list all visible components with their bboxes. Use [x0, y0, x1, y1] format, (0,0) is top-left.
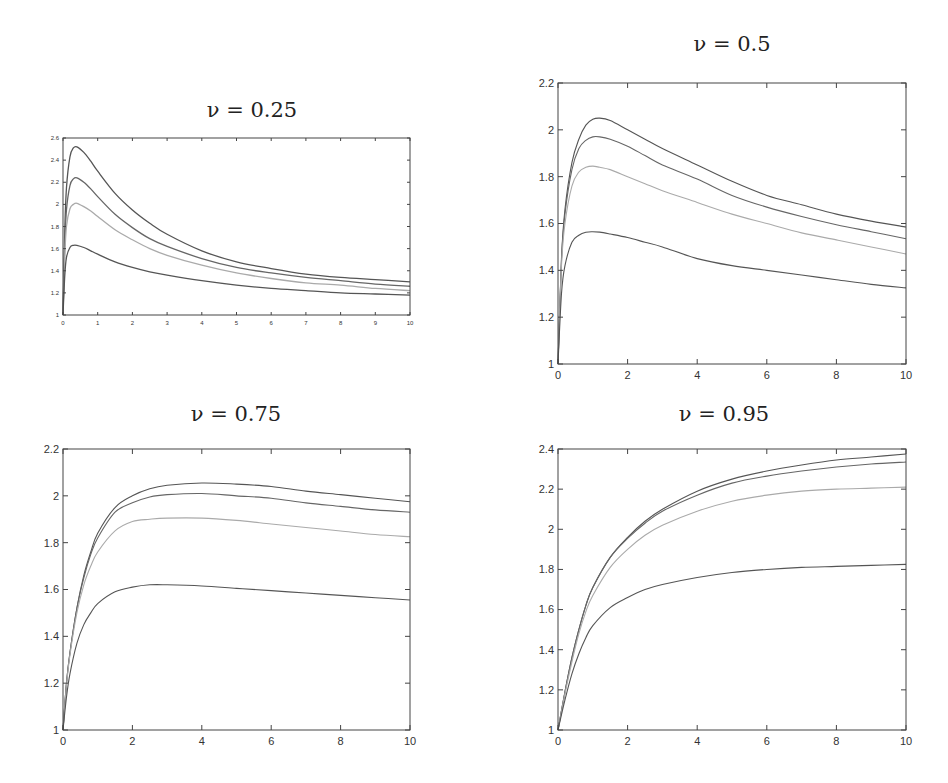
y-tick-label: 1.2	[539, 684, 554, 696]
x-tick-label: 9	[374, 320, 378, 326]
x-tick-label: 2	[129, 735, 135, 747]
y-tick-label: 2	[56, 201, 60, 207]
y-tick-label: 1.4	[539, 644, 554, 656]
y-tick-label: 1.2	[539, 311, 554, 323]
curve-4	[558, 564, 906, 730]
x-tick-label: 3	[165, 320, 169, 326]
x-tick-label: 10	[900, 735, 912, 747]
x-tick-label: 10	[404, 735, 416, 747]
y-tick-label: 1.4	[44, 630, 59, 642]
y-tick-label: 1	[548, 358, 554, 370]
x-tick-label: 6	[268, 735, 274, 747]
x-tick-label: 4	[694, 369, 700, 381]
x-tick-label: 8	[339, 320, 343, 326]
x-tick-label: 4	[199, 735, 205, 747]
curve-2	[558, 462, 906, 730]
y-tick-label: 1	[53, 724, 59, 736]
panel-1: 024681011.21.41.61.822.2	[539, 77, 912, 381]
axes-box	[63, 449, 410, 730]
x-tick-label: 1	[96, 320, 100, 326]
curve-4	[558, 232, 906, 364]
x-tick-label: 8	[833, 735, 839, 747]
y-tick-label: 2.2	[539, 77, 554, 89]
y-tick-label: 1.6	[539, 603, 554, 615]
y-tick-label: 2	[548, 523, 554, 535]
y-tick-label: 1.2	[44, 677, 59, 689]
y-tick-label: 1.6	[51, 246, 60, 252]
x-tick-label: 0	[60, 735, 66, 747]
curve-1	[558, 454, 906, 730]
curve-4	[63, 245, 410, 315]
curve-4	[63, 585, 410, 730]
x-tick-label: 2	[625, 735, 631, 747]
x-tick-label: 0	[61, 320, 65, 326]
x-tick-label: 2	[131, 320, 135, 326]
plot-canvas: 01234567891011.21.41.61.822.22.42.602468…	[0, 0, 948, 783]
x-tick-label: 0	[555, 369, 561, 381]
y-tick-label: 2	[548, 124, 554, 136]
x-tick-label: 6	[764, 735, 770, 747]
curve-1	[558, 118, 906, 364]
panel-2: 024681011.21.41.61.822.2	[44, 443, 416, 747]
y-tick-label: 1.8	[51, 224, 60, 230]
y-tick-label: 2.6	[51, 135, 60, 141]
curve-3	[63, 203, 410, 315]
axes-box	[63, 138, 410, 315]
curve-2	[63, 178, 410, 315]
x-tick-label: 0	[555, 735, 561, 747]
x-tick-label: 10	[407, 320, 414, 326]
y-tick-label: 1.6	[539, 217, 554, 229]
y-tick-label: 1	[548, 724, 554, 736]
y-tick-label: 1	[56, 312, 60, 318]
y-tick-label: 1.4	[51, 268, 60, 274]
y-tick-label: 2.2	[51, 179, 60, 185]
x-tick-label: 6	[270, 320, 274, 326]
y-tick-label: 1.8	[44, 537, 59, 549]
x-tick-label: 5	[235, 320, 239, 326]
y-tick-label: 2.2	[539, 483, 554, 495]
y-tick-label: 2.4	[539, 443, 554, 455]
curve-3	[63, 518, 410, 730]
x-tick-label: 8	[338, 735, 344, 747]
y-tick-label: 2	[53, 490, 59, 502]
curve-3	[558, 487, 906, 730]
axes-box	[558, 449, 906, 730]
y-tick-label: 2.2	[44, 443, 59, 455]
x-tick-label: 8	[833, 369, 839, 381]
panel-3: 024681011.21.41.61.822.22.4	[539, 443, 912, 747]
x-tick-label: 4	[200, 320, 204, 326]
y-tick-label: 1.6	[44, 583, 59, 595]
x-tick-label: 7	[304, 320, 308, 326]
panel-0: 01234567891011.21.41.61.822.22.42.6	[51, 135, 414, 326]
axes-box	[558, 83, 906, 364]
curve-1	[63, 146, 410, 315]
y-tick-label: 2.4	[51, 157, 60, 163]
x-tick-label: 2	[625, 369, 631, 381]
curve-2	[63, 493, 410, 730]
y-tick-label: 1.4	[539, 264, 554, 276]
y-tick-label: 1.8	[539, 563, 554, 575]
x-tick-label: 10	[900, 369, 912, 381]
curve-2	[558, 136, 906, 364]
y-tick-label: 1.2	[51, 290, 60, 296]
y-tick-label: 1.8	[539, 171, 554, 183]
x-tick-label: 6	[764, 369, 770, 381]
x-tick-label: 4	[694, 735, 700, 747]
